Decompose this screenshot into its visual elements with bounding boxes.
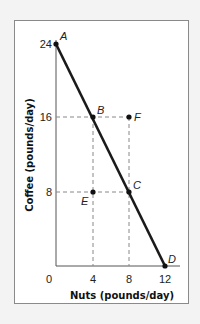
point-c (126, 189, 131, 194)
x-tick-8: 8 (126, 273, 132, 285)
x-tick-12: 12 (159, 273, 171, 285)
point-e (90, 189, 95, 194)
label-d: D (168, 253, 176, 265)
x-axis-title: Nuts (pounds/day) (70, 290, 174, 301)
y-tick-16: 16 (40, 111, 52, 123)
x-tick-0: 0 (46, 273, 52, 285)
ppf-line (56, 44, 165, 266)
point-f (126, 114, 131, 119)
point-b (90, 114, 95, 119)
point-d (162, 263, 167, 268)
label-e: E (81, 195, 89, 207)
label-a: A (59, 30, 67, 42)
ppf-chart: A B C D E F 24 16 8 0 4 8 12 Nuts (pound… (0, 0, 200, 324)
x-tick-4: 4 (90, 273, 96, 285)
y-tick-24: 24 (40, 38, 52, 50)
label-f: F (134, 111, 142, 123)
y-tick-8: 8 (46, 186, 52, 198)
point-a (53, 41, 58, 46)
y-axis-title: Coffee (pounds/day) (24, 98, 35, 212)
label-c: C (133, 179, 141, 191)
label-b: B (97, 104, 104, 116)
